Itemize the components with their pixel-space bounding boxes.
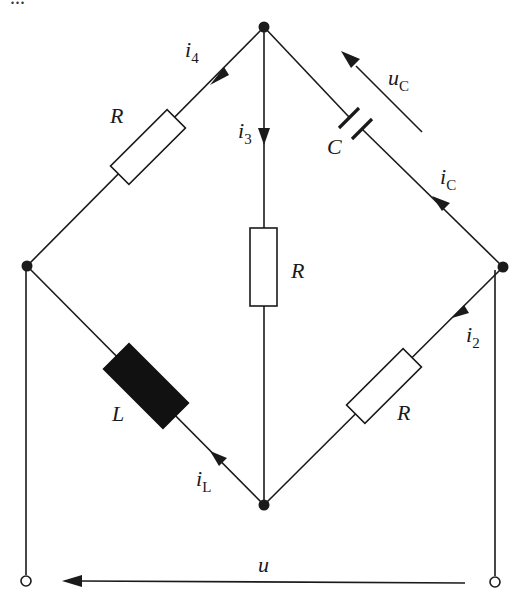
arrow-i3-icon [258,128,270,145]
cropped-caption: ... [10,0,25,8]
capacitor-label: C [327,134,342,159]
label-uC: uC [388,65,409,94]
svg-text:i3: i3 [238,118,252,147]
svg-text:i4: i4 [185,37,199,66]
svg-text:uC: uC [388,65,409,94]
circuit-diagram: ... R R C L R [0,0,530,612]
inductor-label: L [111,401,124,426]
resistor-top-left-label: R [109,103,124,128]
terminal-left [21,576,31,586]
svg-text:iC: iC [440,164,456,193]
node-bottom [259,500,270,511]
label-iC: iC [440,164,456,193]
label-i2: i2 [466,322,480,351]
node-top [259,22,270,33]
node-left [22,261,33,272]
resistor-center-label: R [290,258,305,283]
arrow-iC-icon [432,196,450,211]
resistor-bottom-right-label: R [396,400,411,425]
arrow-i2-icon [452,305,469,318]
arrow-iL-icon [210,451,227,466]
voltage-arrow-uC [341,51,422,132]
svg-text:iL: iL [196,466,211,495]
label-iL: iL [196,466,211,495]
terminal-right [490,577,500,587]
wire-top-right-b [362,129,503,267]
label-u: u [258,552,269,577]
wire-top-right-a [264,27,349,117]
arrow-i4-icon [210,67,229,85]
resistor-center [250,228,277,306]
svg-text:...: ... [10,0,25,8]
label-i3: i3 [238,118,252,147]
svg-text:i2: i2 [466,322,480,351]
node-right [498,262,509,273]
label-i4: i4 [185,37,199,66]
